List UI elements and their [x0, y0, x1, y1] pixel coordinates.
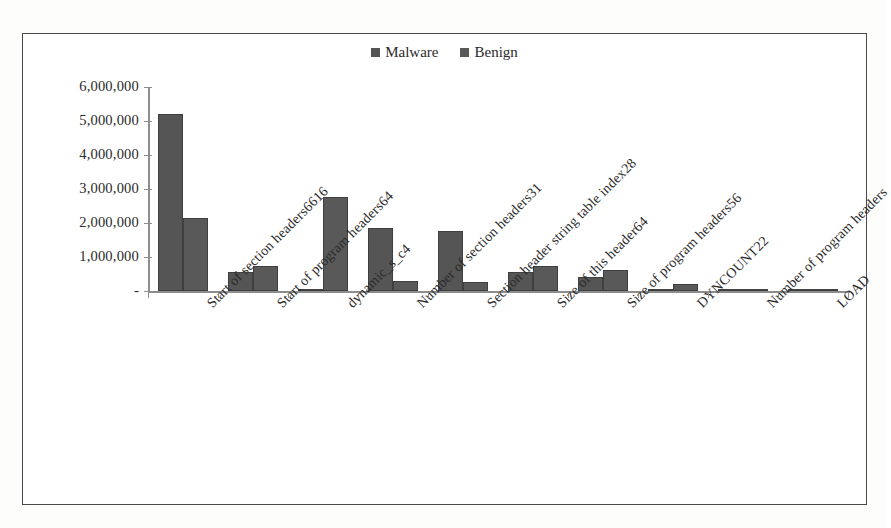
- y-axis-tick-label: 3,000,000: [31, 180, 139, 197]
- x-axis-tick: [638, 292, 639, 298]
- bar-benign[interactable]: [463, 282, 488, 291]
- y-axis-tick-label: 6,000,000: [31, 78, 139, 95]
- y-axis-tick: [144, 223, 152, 224]
- x-axis-tick: [568, 292, 569, 298]
- y-axis-labels: 6,000,0005,000,0004,000,0003,000,0002,00…: [23, 34, 139, 504]
- x-axis-labels: Start of section headers6616Start of pro…: [148, 300, 850, 500]
- x-axis-tick: [218, 292, 219, 298]
- y-axis-tick: [144, 155, 152, 156]
- bar-malware[interactable]: [158, 114, 183, 291]
- bar-benign[interactable]: [533, 266, 558, 291]
- legend-label: Malware: [385, 44, 438, 61]
- x-axis-tick: [288, 292, 289, 298]
- y-axis-tick: [144, 257, 152, 258]
- legend-label: Benign: [474, 44, 517, 61]
- chart-legend: MalwareBenign: [23, 44, 866, 61]
- x-axis-tick: [428, 292, 429, 298]
- y-axis-tick-label: 5,000,000: [31, 112, 139, 129]
- y-axis-tick-label: 1,000,000: [31, 248, 139, 265]
- x-axis-tick: [498, 292, 499, 298]
- legend-item-malware[interactable]: Malware: [371, 44, 438, 61]
- y-axis-tick: [144, 189, 152, 190]
- bar-benign[interactable]: [393, 281, 418, 291]
- y-axis-tick-label: -: [31, 282, 139, 299]
- bar-benign[interactable]: [183, 218, 208, 291]
- bar-group: [148, 87, 218, 291]
- x-axis-tick: [848, 292, 849, 298]
- bar-benign[interactable]: [603, 270, 628, 291]
- legend-item-benign[interactable]: Benign: [460, 44, 517, 61]
- x-axis-tick: [358, 292, 359, 298]
- x-axis-tick: [708, 292, 709, 298]
- legend-swatch-icon: [460, 48, 469, 57]
- legend-swatch-icon: [371, 48, 380, 57]
- y-axis-tick-label: 2,000,000: [31, 214, 139, 231]
- y-axis-tick: [144, 87, 152, 88]
- chart-frame: MalwareBenign 6,000,0005,000,0004,000,00…: [22, 33, 867, 505]
- bar-benign[interactable]: [253, 266, 278, 291]
- x-axis-tick: [778, 292, 779, 298]
- y-axis-tick: [144, 121, 152, 122]
- bar-benign[interactable]: [673, 284, 698, 291]
- bar-benign[interactable]: [743, 289, 768, 291]
- y-axis-tick-label: 4,000,000: [31, 146, 139, 163]
- bar-benign[interactable]: [813, 289, 838, 291]
- x-axis-tick: [148, 292, 149, 298]
